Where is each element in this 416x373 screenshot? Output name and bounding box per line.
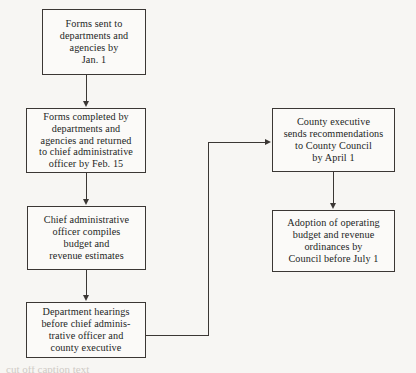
arrow-down-icon-forms-completed — [83, 101, 89, 107]
arrow-down-icon-compiles — [83, 199, 89, 205]
arrow-down-icon-hearings — [83, 295, 89, 301]
page-caption-sliver: cut off caption text — [0, 366, 416, 373]
node-forms-sent-label: Forms sent to departments and agencies b… — [60, 18, 129, 66]
node-recommendations-label: County executive sends recommendations t… — [284, 116, 384, 164]
connector-hearings-to-recommendations-segment-3 — [208, 142, 266, 143]
node-county-executive-recommendations: County executive sends recommendations t… — [272, 108, 395, 172]
node-hearings-label: Department hearings before chief adminis… — [41, 306, 130, 354]
node-compiles-label: Chief administrative officer compiles bu… — [44, 214, 129, 262]
node-chief-administrative-officer-compiles: Chief administrative officer compiles bu… — [27, 206, 146, 270]
node-forms-completed: Forms completed by departments and agenc… — [26, 108, 146, 173]
flowchart-diagram: Forms sent to departments and agencies b… — [0, 0, 416, 373]
node-forms-sent: Forms sent to departments and agencies b… — [42, 9, 146, 75]
page-caption-sliver-text: cut off caption text — [0, 366, 416, 373]
arrow-right-icon-recommendations — [265, 139, 271, 145]
node-forms-completed-label: Forms completed by departments and agenc… — [39, 111, 133, 171]
arrow-down-icon-adoption — [330, 203, 336, 209]
connector-hearings-to-recommendations-segment-2 — [208, 142, 209, 336]
connector-compiles-to-hearings — [86, 270, 87, 296]
connector-hearings-to-recommendations-segment-1 — [146, 335, 208, 336]
node-department-hearings: Department hearings before chief adminis… — [26, 302, 146, 358]
node-adoption-label: Adoption of operating budget and revenue… — [287, 217, 380, 265]
connector-forms-sent-to-forms-completed — [86, 75, 87, 102]
connector-recommendations-to-adoption — [333, 172, 334, 204]
connector-forms-completed-to-compiles — [86, 173, 87, 200]
node-adoption-of-operating-budget: Adoption of operating budget and revenue… — [272, 210, 395, 272]
